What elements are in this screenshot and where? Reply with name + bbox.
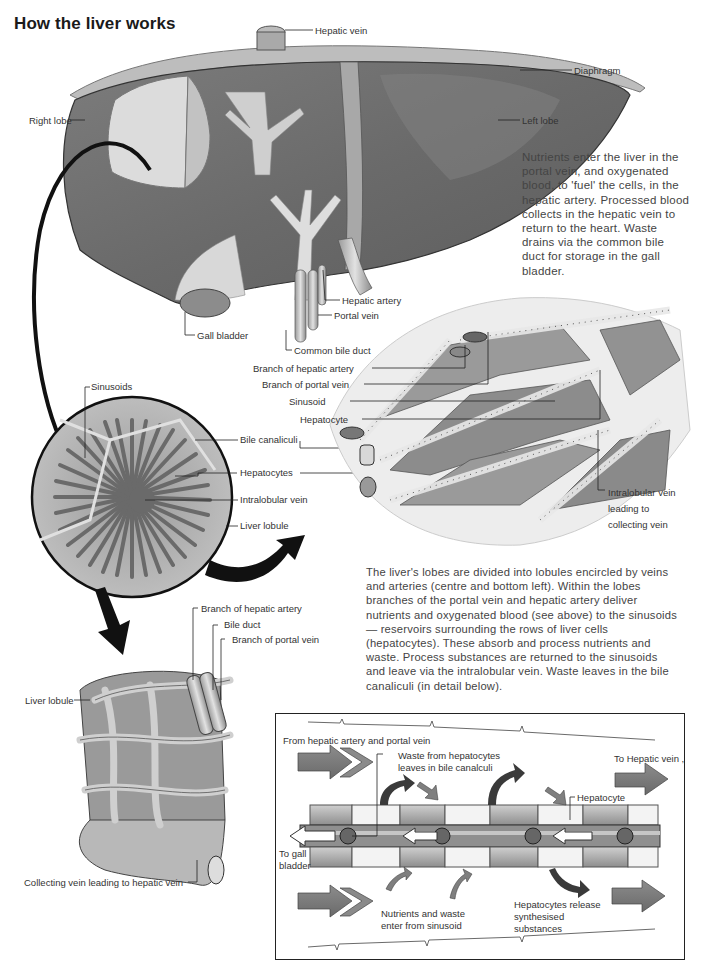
label-line: enter from sinusoid bbox=[381, 920, 465, 932]
intro-line: portal vein, and oxygenated bbox=[522, 164, 702, 178]
label-3d-bile-duct: Bile duct bbox=[224, 619, 260, 630]
lobule-line: (hepatocytes). These absorb and process … bbox=[366, 636, 706, 650]
label-right-lobe: Right lobe bbox=[29, 115, 72, 126]
label-from-hepatic-artery-portal-vein: From hepatic artery and portal vein bbox=[283, 735, 430, 746]
lobule-line: canaliculi (in detail below). bbox=[366, 679, 706, 693]
label-to-hepatic-vein: To Hepatic vein , bbox=[614, 753, 684, 764]
label-hepatocytes-release: Hepatocytes release synthesised substanc… bbox=[514, 899, 601, 935]
label-hepatic-artery: Hepatic artery bbox=[342, 295, 401, 306]
intro-line: Nutrients enter the liver in the bbox=[522, 150, 702, 164]
label-line: To gall bbox=[279, 848, 311, 860]
label-intralobular-vein-collecting: Intralobular vein leading to collecting … bbox=[608, 485, 676, 533]
lobule-line: and leave via the intralobular vein. Was… bbox=[366, 664, 706, 678]
label-hepatocyte-detail: Hepatocyte bbox=[577, 792, 625, 803]
lobule-3d-illustration bbox=[79, 671, 230, 885]
lobule-paragraph: The liver's lobes are divided into lobul… bbox=[366, 565, 706, 693]
label-sinusoid: Sinusoid bbox=[289, 396, 325, 407]
label-line: substances bbox=[514, 923, 601, 935]
label-line: Nutrients and waste bbox=[381, 908, 465, 920]
label-hepatocytes: Hepatocytes bbox=[240, 467, 293, 478]
label-line: synthesised bbox=[514, 911, 601, 923]
intro-line: hepatic artery. Processed blood bbox=[522, 193, 702, 207]
lobule-line: The liver's lobes are divided into lobul… bbox=[366, 565, 706, 579]
intro-line: bladder. bbox=[522, 264, 702, 278]
label-3d-branch-portal-vein: Branch of portal vein bbox=[232, 634, 319, 645]
intro-line: duct for storage in the gall bbox=[522, 249, 702, 263]
label-hepatic-vein: Hepatic vein bbox=[315, 25, 367, 36]
label-left-lobe: Left lobe bbox=[522, 115, 558, 126]
label-line: Waste from hepatocytes bbox=[398, 750, 500, 762]
label-nutrients-waste-enter: Nutrients and waste enter from sinusoid bbox=[381, 908, 465, 932]
label-line: Hepatocytes release bbox=[514, 899, 601, 911]
label-branch-hepatic-artery: Branch of hepatic artery bbox=[253, 363, 354, 374]
label-line: collecting vein bbox=[608, 517, 676, 533]
lobule-line: — reservoirs surrounding the rows of liv… bbox=[366, 622, 706, 636]
intro-line: return to the heart. Waste bbox=[522, 221, 702, 235]
label-line: leading to bbox=[608, 501, 676, 517]
lobule-line: nutrients and oxygenated blood (see abov… bbox=[366, 608, 706, 622]
label-branch-portal-vein: Branch of portal vein bbox=[262, 379, 349, 390]
label-waste-from-hepatocytes: Waste from hepatocytes leaves in bile ca… bbox=[398, 750, 500, 774]
page-title: How the liver works bbox=[14, 14, 176, 34]
lobule-line: and arteries (centre and bottom left). W… bbox=[366, 579, 706, 593]
label-line: Intralobular vein bbox=[608, 485, 676, 501]
label-gall-bladder: Gall bladder bbox=[197, 330, 248, 341]
label-bile-canaliculi: Bile canaliculi bbox=[240, 434, 298, 445]
label-portal-vein: Portal vein bbox=[334, 310, 379, 321]
label-to-gall-bladder: To gall bladder bbox=[279, 848, 311, 872]
label-collecting-vein: Collecting vein leading to hepatic vein bbox=[24, 877, 183, 888]
intro-paragraph: Nutrients enter the liver in the portal … bbox=[522, 150, 702, 278]
label-intralobular-vein: Intralobular vein bbox=[240, 494, 308, 505]
label-line: leaves in bile canalculi bbox=[398, 762, 500, 774]
label-3d-liver-lobule: Liver lobule bbox=[25, 695, 74, 706]
lobule-cross-section bbox=[32, 397, 232, 597]
lobule-line: waste. Process substances are returned t… bbox=[366, 650, 706, 664]
lobule-line: branches of the portal vein and hepatic … bbox=[366, 593, 706, 607]
label-diaphragm: Diaphragm bbox=[574, 65, 620, 76]
label-3d-branch-hepatic-artery: Branch of hepatic artery bbox=[201, 603, 302, 614]
intro-line: drains via the common bile bbox=[522, 235, 702, 249]
label-hepatocyte: Hepatocyte bbox=[300, 414, 348, 425]
intro-line: blood, to 'fuel' the cells, in the bbox=[522, 178, 702, 192]
label-sinusoids: Sinusoids bbox=[91, 381, 132, 392]
label-line: bladder bbox=[279, 860, 311, 872]
intro-line: collects in the hepatic vein to bbox=[522, 207, 702, 221]
label-liver-lobule: Liver lobule bbox=[240, 520, 289, 531]
label-common-bile-duct: Common bile duct bbox=[294, 345, 371, 356]
